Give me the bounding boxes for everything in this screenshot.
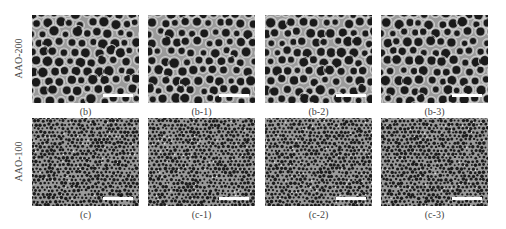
scale-bar <box>219 94 249 97</box>
sem-image-c-1 <box>148 118 255 206</box>
scale-bar <box>452 197 482 200</box>
panel-caption: (c) <box>32 209 139 220</box>
scale-bar <box>103 94 133 97</box>
panel-caption: (b-1) <box>148 106 255 117</box>
scale-bar <box>336 197 366 200</box>
panel-caption: (b-2) <box>265 106 372 117</box>
panel-caption: (c-3) <box>381 209 488 220</box>
row-label-aao-100: AAO-100 <box>13 132 24 192</box>
scale-bar <box>336 94 366 97</box>
sem-image-b <box>32 15 139 103</box>
panel-caption: (c-1) <box>148 209 255 220</box>
panel-caption: (b-3) <box>381 106 488 117</box>
scale-bar <box>452 94 482 97</box>
sem-image-b-3 <box>381 15 488 103</box>
scale-bar <box>103 197 133 200</box>
sem-image-c-3 <box>381 118 488 206</box>
sem-image-c-2 <box>265 118 372 206</box>
row-label-aao-200: AAO-200 <box>13 29 24 89</box>
scale-bar <box>219 197 249 200</box>
panel-caption: (c-2) <box>265 209 372 220</box>
sem-image-b-1 <box>148 15 255 103</box>
panel-caption: (b) <box>32 106 139 117</box>
sem-image-b-2 <box>265 15 372 103</box>
sem-image-c <box>32 118 139 206</box>
